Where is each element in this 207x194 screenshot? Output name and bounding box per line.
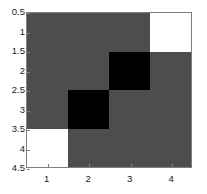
y-tick-label: 4 (1, 144, 25, 154)
heatmap-cell (150, 129, 191, 168)
heatmap-cell (109, 129, 150, 168)
y-tick-label: 4.5 (1, 163, 25, 173)
y-tick-mark (27, 111, 30, 112)
y-tick-mark (27, 33, 30, 34)
y-tick-mark (27, 169, 30, 170)
x-tick-label: 3 (115, 174, 145, 184)
plot-axes (26, 12, 192, 168)
y-tick-mark (27, 13, 30, 14)
y-tick-mark (27, 52, 30, 53)
heatmap-cell (150, 13, 191, 52)
y-tick-mark (27, 150, 30, 151)
heatmap-cell (68, 52, 109, 91)
heatmap-grid (27, 13, 191, 167)
x-tick-mark (89, 164, 90, 167)
y-tick-label: 2 (1, 66, 25, 76)
x-tick-mark (48, 164, 49, 167)
heatmap-cell (109, 13, 150, 52)
y-tick-label: 2.5 (1, 85, 25, 95)
x-tick-mark (172, 164, 173, 167)
heatmap-cell (27, 129, 68, 168)
heatmap-cell (150, 90, 191, 129)
y-tick-mark (27, 72, 30, 73)
x-tick-label: 1 (32, 174, 62, 184)
y-tick-label: 0.5 (1, 7, 25, 17)
heatmap-cell (109, 90, 150, 129)
x-tick-label: 4 (156, 174, 186, 184)
heatmap-cell (27, 52, 68, 91)
y-tick-label: 3.5 (1, 124, 25, 134)
heatmap-cell (150, 52, 191, 91)
heatmap-cell (68, 90, 109, 129)
y-tick-mark (27, 91, 30, 92)
heatmap-cell (109, 52, 150, 91)
x-tick-mark (131, 164, 132, 167)
y-tick-label: 3 (1, 105, 25, 115)
y-tick-mark (27, 130, 30, 131)
heatmap-cell (68, 13, 109, 52)
heatmap-cell (68, 129, 109, 168)
heatmap-cell (27, 13, 68, 52)
y-tick-label: 1.5 (1, 46, 25, 56)
y-tick-label: 1 (1, 27, 25, 37)
x-tick-label: 2 (73, 174, 103, 184)
figure-canvas: 0.511.522.533.544.5 1234 (0, 0, 207, 194)
heatmap-cell (27, 90, 68, 129)
